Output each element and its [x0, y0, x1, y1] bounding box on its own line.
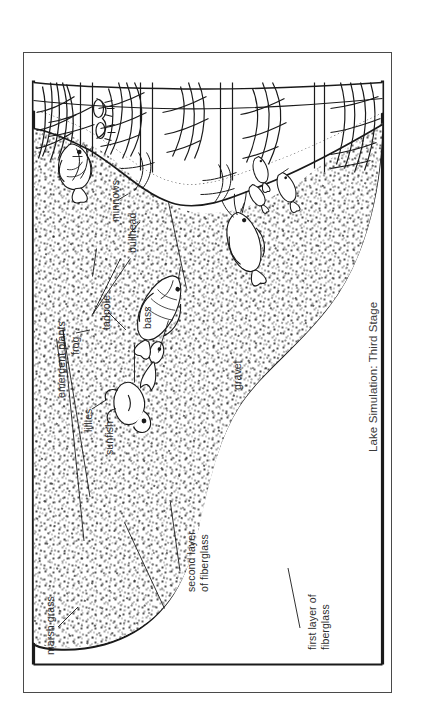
- page-root: Lake Simulation: Third Stage marsh grass…: [0, 0, 428, 728]
- label-marsh-grass: marsh grass: [45, 596, 57, 655]
- label-gravel: gravel: [232, 361, 244, 390]
- label-second-layer-line1: second layer: [185, 531, 197, 592]
- label-bass: bass: [142, 306, 154, 329]
- label-lillies: lillies: [83, 409, 95, 432]
- label-first-layer-line1: first layer of: [306, 594, 318, 650]
- diagram-stage: [23, 52, 392, 693]
- label-sunfish: sunfish: [104, 421, 116, 455]
- diagram-canvas: [23, 52, 392, 693]
- label-tadpole: tadpole: [101, 295, 113, 330]
- label-bullhead: bullhead: [127, 212, 139, 253]
- label-emergent-plants: emergent plants: [56, 321, 68, 398]
- diagram-caption: Lake Simulation: Third Stage: [367, 302, 380, 452]
- label-minnows: minnows: [110, 180, 122, 222]
- label-second-layer-line2: of fiberglass: [198, 534, 210, 592]
- label-first-layer-line2: fiberglass: [319, 604, 331, 650]
- label-frog: frog: [70, 337, 82, 356]
